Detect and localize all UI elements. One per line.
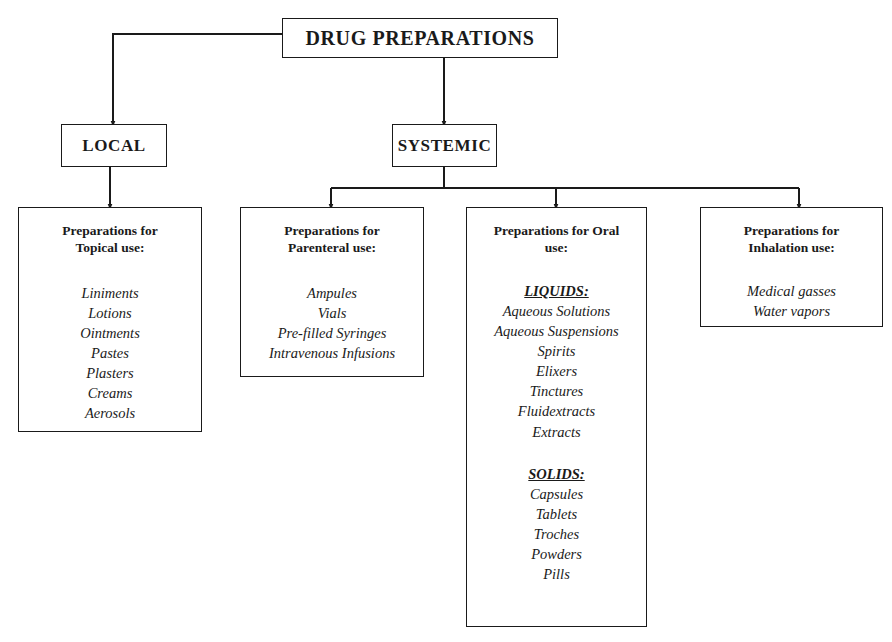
node-drug-preparations: DRUG PREPARATIONS: [282, 18, 558, 58]
inhalation-heading: Preparations for Inhalation use:: [744, 222, 839, 257]
list-item: Powders: [494, 544, 618, 564]
node-inhalation-preparations: Preparations for Inhalation use: Medical…: [700, 207, 883, 327]
parenteral-heading: Preparations for Parenteral use:: [284, 222, 379, 257]
node-systemic: SYSTEMIC: [392, 124, 497, 167]
oral-body: LIQUIDS: Aqueous Solutions Aqueous Suspe…: [494, 281, 618, 585]
list-item: Ampules: [269, 283, 395, 303]
list-item: Aqueous Suspensions: [494, 321, 618, 341]
list-item: Troches: [494, 524, 618, 544]
list-item: Elixers: [494, 361, 618, 381]
node-parenteral-preparations: Preparations for Parenteral use: Ampules…: [240, 207, 424, 377]
list-item: Capsules: [494, 484, 618, 504]
list-item: Liniments: [80, 283, 140, 303]
list-item: Water vapors: [747, 301, 836, 321]
list-item: Ointments: [80, 323, 140, 343]
inhalation-item-list: Medical gasses Water vapors: [747, 281, 836, 321]
list-item: Aerosols: [80, 403, 140, 423]
list-item: Lotions: [80, 303, 140, 323]
oral-group-spacer: [494, 442, 618, 464]
list-item: Vials: [269, 303, 395, 323]
topical-item-list: Liniments Lotions Ointments Pastes Plast…: [80, 283, 140, 424]
oral-group-label-liquids: LIQUIDS:: [494, 281, 618, 301]
list-item: Intravenous Infusions: [269, 343, 395, 363]
oral-liquids-list: Aqueous Solutions Aqueous Suspensions Sp…: [494, 301, 618, 442]
list-item: Creams: [80, 383, 140, 403]
node-topical-preparations: Preparations for Topical use: Liniments …: [18, 207, 202, 432]
parenteral-item-list: Ampules Vials Pre-filled Syringes Intrav…: [269, 283, 395, 364]
list-item: Aqueous Solutions: [494, 301, 618, 321]
list-item: Medical gasses: [747, 281, 836, 301]
node-oral-preparations: Preparations for Oral use: LIQUIDS: Aque…: [466, 207, 647, 627]
list-item: Spirits: [494, 341, 618, 361]
list-item: Fluidextracts: [494, 401, 618, 421]
list-item: Extracts: [494, 422, 618, 442]
oral-heading: Preparations for Oral use:: [494, 222, 619, 257]
node-local-label: LOCAL: [82, 136, 145, 156]
list-item: Tinctures: [494, 381, 618, 401]
list-item: Pre-filled Syringes: [269, 323, 395, 343]
list-item: Plasters: [80, 363, 140, 383]
list-item: Pastes: [80, 343, 140, 363]
oral-solids-list: Capsules Tablets Troches Powders Pills: [494, 484, 618, 585]
node-systemic-label: SYSTEMIC: [398, 136, 492, 156]
list-item: Tablets: [494, 504, 618, 524]
oral-group-label-solids: SOLIDS:: [494, 464, 618, 484]
node-drug-preparations-label: DRUG PREPARATIONS: [306, 27, 535, 50]
connector-root-to-local: [113, 34, 282, 124]
drug-preparations-flowchart: DRUG PREPARATIONS LOCAL SYSTEMIC Prepara…: [0, 0, 892, 642]
topical-heading: Preparations for Topical use:: [62, 222, 157, 257]
list-item: Pills: [494, 564, 618, 584]
node-local: LOCAL: [61, 124, 167, 167]
